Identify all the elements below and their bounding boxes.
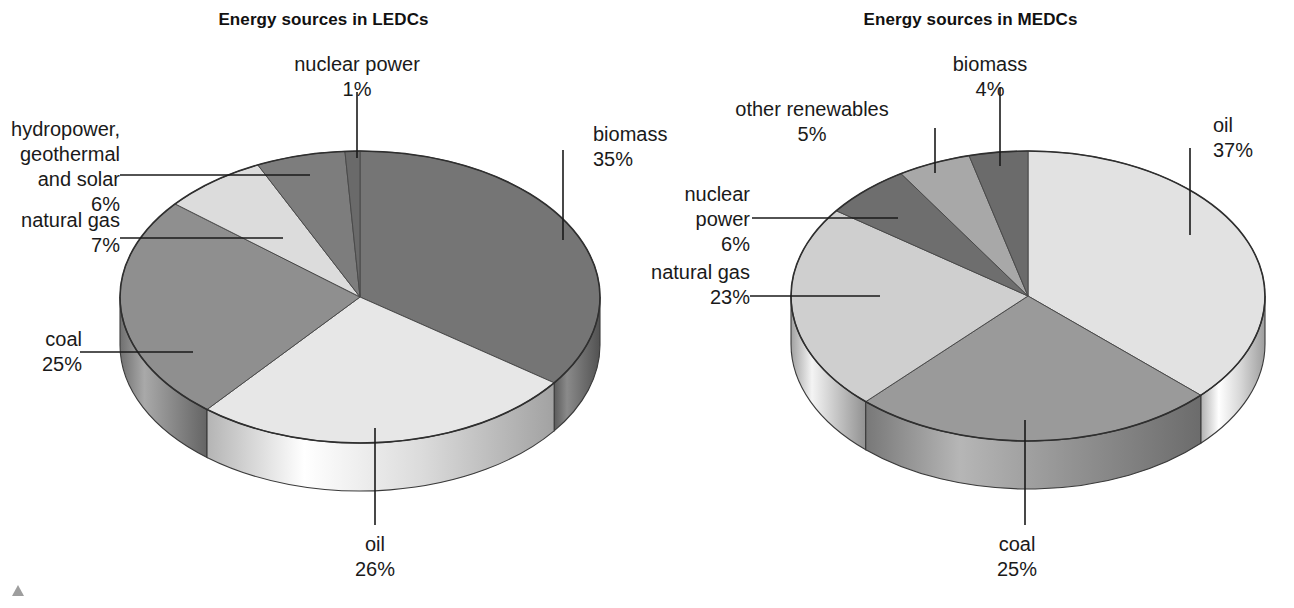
label-medc-other-renewables-name: other renewables — [712, 97, 912, 122]
label-medc-oil-pct: 37% — [1213, 138, 1293, 163]
label-medc-natural-gas: natural gas 23% — [615, 260, 750, 310]
label-medc-nuclear-line1: nuclear — [640, 182, 750, 207]
label-medc-other-renewables: other renewables 5% — [712, 97, 912, 147]
label-medc-oil: oil 37% — [1213, 113, 1293, 163]
label-medc-other-renewables-pct: 5% — [712, 122, 912, 147]
label-medc-coal-name: coal — [972, 532, 1062, 557]
label-medc-coal: coal 25% — [972, 532, 1062, 582]
label-medc-biomass-name: biomass — [930, 52, 1050, 77]
label-medc-nuclear: nuclear power 6% — [640, 182, 750, 257]
figure-root: Energy sources in LEDCs nuclear power 1%… — [0, 0, 1294, 608]
label-medc-natural-gas-pct: 23% — [615, 285, 750, 310]
label-medc-nuclear-pct: 6% — [640, 232, 750, 257]
label-medc-biomass: biomass 4% — [930, 52, 1050, 102]
label-medc-natural-gas-name: natural gas — [615, 260, 750, 285]
label-medc-nuclear-line2: power — [640, 207, 750, 232]
triangle-marker-icon — [12, 585, 24, 596]
label-medc-biomass-pct: 4% — [930, 77, 1050, 102]
label-medc-coal-pct: 25% — [972, 557, 1062, 582]
label-medc-oil-name: oil — [1213, 113, 1293, 138]
